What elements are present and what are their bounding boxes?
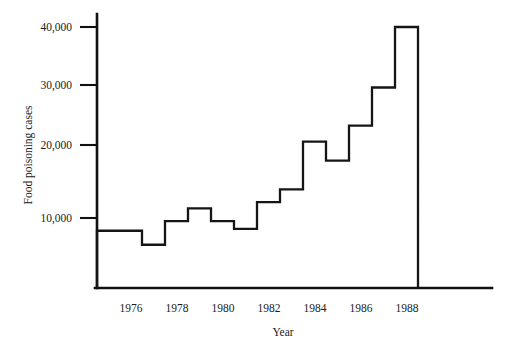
y-tick-label-20000: 20,000 <box>40 139 72 152</box>
food-poisoning-step-chart: Food poisoning cases 40,000 30,000 20,00… <box>0 0 507 349</box>
data-series-step-line <box>97 27 418 288</box>
x-tick-label-1986: 1986 <box>350 302 373 314</box>
x-axis-label: Year <box>272 326 293 338</box>
x-tick-label-1976: 1976 <box>120 302 143 314</box>
y-tick-label-30000: 30,000 <box>40 79 72 92</box>
y-tick-label-40000: 40,000 <box>40 21 72 34</box>
y-tick-label-10000: 10,000 <box>40 212 72 225</box>
x-tick-label-1978: 1978 <box>166 302 189 314</box>
x-tick-label-1980: 1980 <box>212 302 235 314</box>
x-tick-label-1988: 1988 <box>396 302 419 314</box>
y-axis-label: Food poisoning cases <box>22 105 35 205</box>
x-tick-label-1984: 1984 <box>304 302 327 314</box>
x-tick-label-1982: 1982 <box>258 302 281 314</box>
chart-container: Food poisoning cases 40,000 30,000 20,00… <box>0 0 507 349</box>
